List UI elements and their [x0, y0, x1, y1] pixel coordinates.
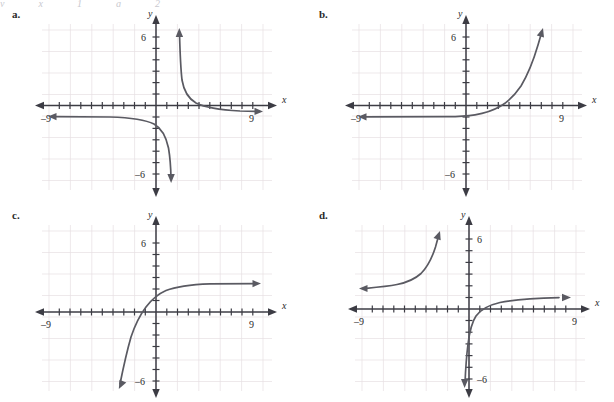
y-tick-label-neg6-b: –6 — [444, 169, 455, 180]
y-tick-label-6-c: 6 — [141, 238, 146, 249]
y-tick-label-neg6-d: –6 — [476, 374, 487, 385]
axes-b — [345, 15, 587, 197]
grid-d — [355, 225, 585, 391]
x-tick-label-neg9-b: –9 — [350, 113, 361, 124]
curve-c — [119, 280, 261, 389]
curve-d-upper-left-branch — [359, 231, 441, 292]
graph-panel-b: b. — [307, 0, 614, 201]
x-axis-label-c: x — [281, 300, 287, 311]
axes-a — [35, 15, 277, 197]
graph-panel-d: d. — [307, 201, 614, 402]
y-tick-label-neg6-a: –6 — [134, 169, 145, 180]
x-tick-label-9-d: 9 — [572, 316, 577, 327]
y-axis-label-c: y — [147, 209, 153, 220]
y-tick-label-6-d: 6 — [477, 234, 482, 245]
graph-b-plot: x y –9 9 6 –6 — [307, 0, 614, 201]
x-axis-label-a: x — [281, 94, 287, 105]
graph-c-plot: x y –9 9 6 –6 — [0, 201, 307, 402]
y-tick-label-6-b: 6 — [451, 32, 456, 43]
x-tick-label-neg9-c: –9 — [40, 319, 51, 330]
axes-c — [35, 216, 277, 398]
graph-panel-a: a. — [0, 0, 307, 201]
x-axis-label-d: x — [594, 297, 600, 308]
graph-panel-c: c. — [0, 201, 307, 402]
y-axis-label-d: y — [460, 209, 466, 220]
grid-c — [42, 225, 272, 391]
x-axis-label-b: x — [591, 94, 597, 105]
graph-a-plot: x y –9 9 6 –6 — [0, 0, 307, 201]
x-tick-label-neg9-d: –9 — [353, 316, 364, 327]
x-tick-label-9-c: 9 — [249, 319, 254, 330]
y-axis-label-b: y — [457, 8, 463, 19]
axes-d — [348, 216, 590, 398]
y-tick-label-neg6-c: –6 — [134, 376, 145, 387]
x-tick-label-9-b: 9 — [559, 113, 564, 124]
y-axis-label-a: y — [147, 8, 153, 19]
x-tick-label-neg9-a: –9 — [40, 113, 51, 124]
x-tick-label-9-a: 9 — [249, 113, 254, 124]
y-tick-label-6-a: 6 — [141, 32, 146, 43]
graph-d-plot: x y –9 9 6 –6 — [307, 201, 614, 402]
